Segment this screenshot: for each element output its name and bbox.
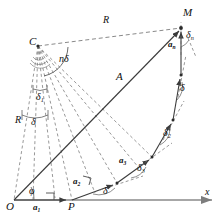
label-delta-n: δn [186,30,194,40]
radius-line-7 [38,46,139,168]
dot-M [179,26,183,30]
label-phi: φ [29,186,35,196]
dot-joint-a3 [151,156,154,159]
right-angle-at-a1 [46,193,54,200]
dot-C [36,44,39,47]
label-delta-2: δ2 [163,128,171,138]
dot-joint-a5 [180,74,183,77]
label-x-axis: x [205,187,209,197]
label-segment-a2: a2 [73,177,80,186]
label-delta-fan-lower: δ [31,117,36,127]
label-segment-a1: a1 [33,203,40,212]
point-label-C: C [29,36,36,47]
radius-to-P [38,46,72,200]
radius-C-to-M [38,28,181,46]
label-A-amplitude: A [116,71,123,82]
label-R-left: R [15,115,21,125]
point-label-M: M [183,7,192,18]
label-segment-a3: a3 [119,156,126,165]
point-label-P: P [68,201,75,212]
geometry-figure: C M O P R R A nδ φ x a1 a2 a3 an δ δ3 δ2… [0,0,222,219]
radius-line-6 [38,46,117,183]
radius-line-8 [38,46,152,157]
dot-joint-a2 [116,182,119,185]
label-segment-an: an [168,40,176,49]
point-label-O: O [6,201,14,212]
angle-arc-at-M [181,40,189,47]
label-delta-fan-upper: δ1 [36,92,44,102]
right-angle-at-a2 [83,176,91,185]
angle-ticks-at-C [30,57,50,68]
label-R-top: R [103,15,109,25]
segment-a5 [173,79,180,120]
dot-joint-a4 [172,119,175,122]
label-delta-plain: δ [180,83,185,93]
amplitude-vector-A [14,31,179,200]
label-delta-at-P: δ [103,186,108,196]
label-delta-3: δ3 [137,163,145,173]
label-n-delta: nδ [59,54,69,64]
